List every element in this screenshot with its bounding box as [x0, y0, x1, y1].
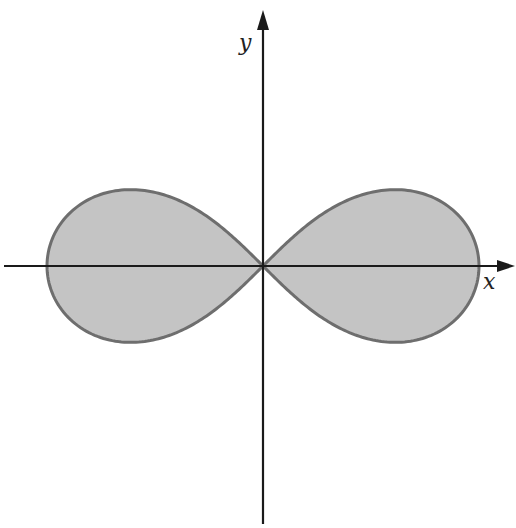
lemniscate-diagram: x y [0, 0, 516, 528]
y-axis-arrow-icon [257, 10, 269, 30]
x-axis-arrow-icon [497, 260, 515, 272]
y-axis-label: y [238, 30, 252, 55]
x-axis-label: x [483, 269, 496, 294]
